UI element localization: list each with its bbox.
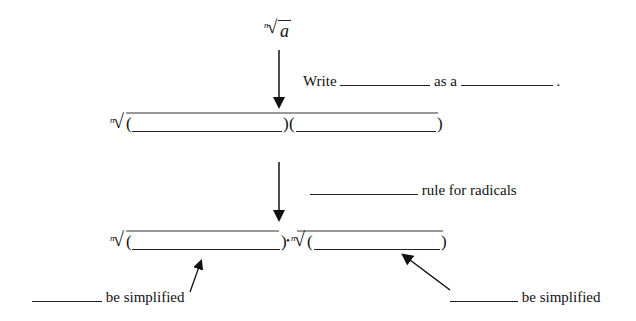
radical-sign-1: √ (113, 228, 124, 251)
step1-prefix: Write (303, 73, 337, 89)
arrow-left-label (190, 264, 200, 292)
bottom-radical: n √ ( ) • n √ ( ) (110, 231, 450, 255)
step1-suffix: . (556, 73, 560, 89)
step1-instruction: Write as a . (303, 71, 560, 90)
radical-sign: √ (267, 16, 277, 38)
radicand: a (278, 20, 291, 42)
radical-sign-2: √ (294, 228, 305, 251)
middle-blank-1[interactable] (132, 117, 282, 132)
bottom-blank-2[interactable] (314, 235, 440, 250)
left-label: be simplified (32, 287, 185, 306)
right-blank[interactable] (450, 287, 518, 302)
step2-instruction: rule for radicals (310, 180, 517, 199)
arrow-right-label (406, 257, 450, 290)
middle-radical: n √ ( ) ( ) (110, 113, 450, 137)
bottom-blank-1[interactable] (132, 235, 280, 250)
arrows-layer (0, 0, 636, 321)
step2-blank[interactable] (310, 180, 418, 195)
radical-sign: √ (113, 110, 124, 133)
step2-suffix: rule for radicals (422, 182, 517, 198)
right-label: be simplified (450, 287, 601, 306)
step1-middle: as a (434, 73, 457, 89)
right-label-suffix: be simplified (522, 289, 601, 305)
middle-blank-2[interactable] (296, 117, 436, 132)
left-label-suffix: be simplified (106, 289, 185, 305)
left-blank[interactable] (32, 287, 102, 302)
step1-blank-1[interactable] (340, 71, 430, 86)
multiply-dot: • (286, 234, 290, 246)
step1-blank-2[interactable] (461, 71, 553, 86)
